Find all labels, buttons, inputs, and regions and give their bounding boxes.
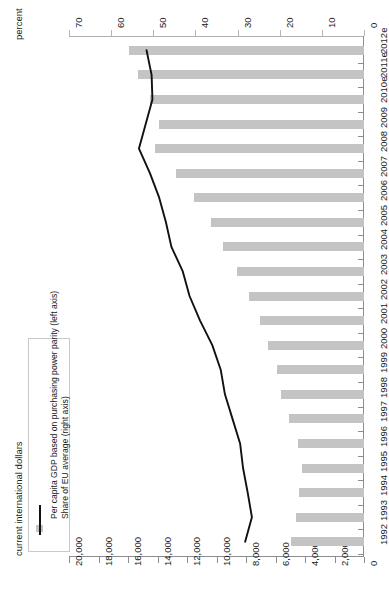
year-label: 2004 [378, 229, 389, 250]
year-label: 1996 [378, 426, 389, 447]
top-tick-label: 70 [73, 17, 84, 28]
bottom-tick [69, 557, 70, 563]
bottom-tick [158, 557, 159, 563]
year-label: 2006 [378, 180, 389, 201]
year-label: 2009 [378, 106, 389, 127]
plot-area [69, 38, 364, 554]
year-label: 1992 [378, 524, 389, 545]
top-tick [153, 30, 154, 36]
bottom-tick [364, 557, 365, 563]
legend-line-swatch [39, 505, 41, 535]
year-label: 2002 [378, 278, 389, 299]
top-tick-label: 50 [157, 17, 168, 28]
bottom-tick [217, 557, 218, 563]
year-label: 2007 [378, 155, 389, 176]
category-tick [358, 554, 364, 555]
year-label: 2011e [378, 53, 389, 79]
bottom-tick-label: 0 [368, 561, 379, 566]
year-label: 1998 [378, 377, 389, 398]
bottom-tick [246, 557, 247, 563]
top-tick [364, 30, 365, 36]
line-series [69, 38, 364, 554]
legend-bar-label: Per capita GDP based on purchasing power… [49, 291, 59, 519]
top-axis-line [69, 36, 364, 37]
bottom-axis-title: current international dollars [14, 441, 24, 556]
year-label: 1999 [378, 352, 389, 373]
top-tick [322, 30, 323, 36]
top-axis-title: percent [14, 8, 24, 40]
top-tick [238, 30, 239, 36]
top-tick [280, 30, 281, 36]
year-label: 2005 [378, 205, 389, 226]
bottom-tick [187, 557, 188, 563]
year-label: 2000 [378, 327, 389, 348]
year-label: 1997 [378, 401, 389, 422]
top-tick-label: 20 [284, 17, 295, 28]
bottom-tick [335, 557, 336, 563]
bottom-tick [305, 557, 306, 563]
bottom-tick [276, 557, 277, 563]
year-label: 1993 [378, 499, 389, 520]
year-label: 2001 [378, 303, 389, 324]
bottom-tick [128, 557, 129, 563]
top-tick-label: 40 [199, 17, 210, 28]
year-label: 1995 [378, 450, 389, 471]
top-tick [111, 30, 112, 36]
legend: Per capita GDP based on purchasing power… [28, 338, 70, 552]
year-label: 2012e [378, 27, 389, 53]
top-tick-label: 10 [326, 17, 337, 28]
top-tick [195, 30, 196, 36]
top-tick-label: 60 [115, 17, 126, 28]
legend-line-label: Share of EU average (right axis) [60, 396, 70, 519]
year-label: 2008 [378, 131, 389, 152]
line-path [139, 50, 252, 541]
year-label: 2010e [378, 76, 389, 102]
year-label: 2003 [378, 254, 389, 275]
bottom-tick [99, 557, 100, 563]
top-tick-label: 30 [242, 17, 253, 28]
year-label: 1994 [378, 475, 389, 496]
top-tick [69, 30, 70, 36]
